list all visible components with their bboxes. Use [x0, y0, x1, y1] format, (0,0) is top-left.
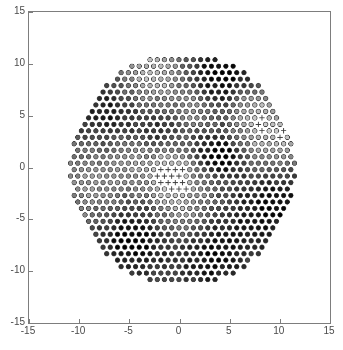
- x-tick: [129, 319, 130, 323]
- y-tick-label: 0: [1, 162, 25, 172]
- x-tick: [29, 319, 30, 323]
- x-tick: [180, 319, 181, 323]
- y-tick-label: -10: [1, 265, 25, 275]
- y-tick-label: -5: [1, 213, 25, 223]
- scatter-plot-canvas: [29, 12, 330, 323]
- y-tick-label: 5: [1, 110, 25, 120]
- x-tick-label: -10: [63, 326, 93, 336]
- y-tick-label: 15: [1, 6, 25, 16]
- plot-axes: [28, 11, 331, 324]
- y-tick: [29, 323, 33, 324]
- y-tick: [29, 12, 33, 13]
- x-tick-label: -15: [13, 326, 43, 336]
- x-tick: [79, 319, 80, 323]
- y-tick: [29, 168, 33, 169]
- y-tick: [29, 116, 33, 117]
- x-tick: [330, 319, 331, 323]
- x-tick-label: 0: [164, 326, 194, 336]
- y-tick: [29, 271, 33, 272]
- x-tick: [230, 319, 231, 323]
- x-tick-label: 15: [314, 326, 343, 336]
- y-tick: [29, 64, 33, 65]
- x-tick-label: 10: [264, 326, 294, 336]
- y-tick-label: 10: [1, 58, 25, 68]
- x-tick-label: 5: [214, 326, 244, 336]
- figure: -15-10-5051015 -15-10-5051015: [0, 0, 343, 350]
- y-tick: [29, 219, 33, 220]
- x-tick-label: -5: [113, 326, 143, 336]
- x-tick: [280, 319, 281, 323]
